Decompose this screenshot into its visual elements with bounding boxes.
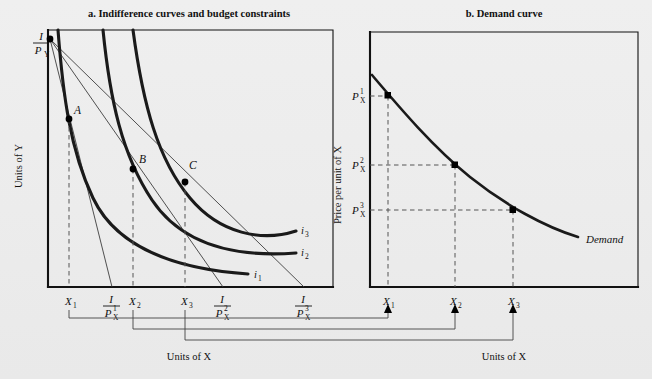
curve-label-i2: i 2 (301, 247, 309, 261)
panel-a-xtick-IPx1-sup: 1 (113, 304, 117, 313)
point-a-dot (66, 116, 73, 123)
panel-a-xtick-IPx1-sub: X (113, 313, 119, 322)
panel-a-xtick-IPx2-sup: 2 (224, 304, 228, 313)
panel-a: a. Indifference curves and budget constr… (13, 8, 333, 362)
panel-b-xtick-X1-base: X (382, 295, 391, 307)
curve-label-i3-base: i (301, 225, 304, 236)
panel-b-ytick-P1: P X 1 (351, 87, 366, 105)
panel-b-ytick-P3-sub: X (360, 210, 366, 219)
panel-b-ytick-P1-sup: 1 (360, 87, 364, 96)
panel-b: b. Demand curve Demand Price per unit of… (332, 8, 638, 362)
panel-b-ytick-P2-sup: 2 (360, 156, 364, 165)
indifference-curve-i1 (58, 30, 248, 274)
indifference-curve-i3 (133, 30, 296, 236)
point-label-a: A (73, 104, 82, 116)
panel-a-xtick-X3-sub: 3 (189, 301, 193, 310)
panel-b-xtick-X2-sub: 2 (458, 301, 462, 310)
panel-a-xtick-IPx3-sub: X (305, 313, 311, 322)
panel-a-xtick-X3: X 3 (180, 295, 193, 310)
panel-a-x-axis-title: Units of X (167, 351, 212, 362)
panel-b-y-axis-title: Price per unit of X (332, 146, 343, 225)
panel-b-ytick-P2: P X 2 (351, 156, 366, 174)
curve-label-i3: i 3 (301, 225, 309, 239)
budget-line-1 (50, 39, 112, 287)
y-intercept-denominator-sub: Y (44, 50, 50, 59)
connector-x3 (185, 310, 513, 340)
demand-point-1 (385, 92, 392, 99)
panel-a-xtick-X2-base: X (128, 295, 137, 307)
panel-b-xtick-X3-sub: 3 (516, 301, 520, 310)
panel-a-xtick-X2-sub: 2 (137, 301, 141, 310)
demand-point-3 (510, 207, 517, 214)
panel-b-ytick-P3: P X 3 (351, 201, 366, 219)
panel-a-xtick-IPx3-sup: 3 (305, 304, 309, 313)
panel-b-title: b. Demand curve (466, 8, 543, 19)
panel-b-xtick-X1-sub: 1 (391, 301, 395, 310)
budget-line-3 (50, 39, 304, 287)
panel-a-xtick-IPx2-sub: X (224, 313, 230, 322)
panel-b-xtick-X2-base: X (449, 295, 458, 307)
point-c-dot (182, 179, 189, 186)
curve-label-i1-base: i (254, 269, 257, 280)
demand-point-2 (452, 162, 459, 169)
curve-label-i2-base: i (301, 247, 304, 258)
panel-b-ytick-P1-sub: X (360, 96, 366, 105)
figure-canvas: a. Indifference curves and budget constr… (0, 0, 652, 379)
panel-a-xtick-X1-sub: 1 (73, 301, 77, 310)
demand-curve (372, 75, 578, 237)
panel-a-xtick-IPx2-denominator: P (215, 307, 223, 319)
panel-b-box (370, 32, 638, 287)
point-label-c: C (189, 159, 197, 171)
panel-a-xtick-X2: X 2 (128, 295, 141, 310)
panel-b-xtick-X3-base: X (507, 295, 516, 307)
curve-label-i1: i 1 (254, 269, 262, 283)
curve-label-i1-sub: 1 (258, 274, 262, 283)
panel-a-y-axis-title: Units of Y (13, 144, 24, 188)
curve-label-i3-sub: 3 (305, 230, 309, 239)
y-intercept-denominator: P (34, 44, 42, 56)
connector-x2 (133, 310, 455, 329)
panel-b-ytick-P3-base: P (351, 204, 359, 216)
panel-b-x-axis-title: Units of X (482, 351, 527, 362)
demand-curve-label: Demand (585, 233, 624, 245)
panel-b-ytick-P2-base: P (351, 159, 359, 171)
panel-a-xtick-X3-base: X (180, 295, 189, 307)
panel-a-title: a. Indifference curves and budget constr… (88, 8, 290, 19)
panel-b-ytick-P3-sup: 3 (360, 201, 364, 210)
economics-figure: a. Indifference curves and budget constr… (0, 0, 652, 379)
y-intercept-dot (47, 36, 54, 43)
panel-a-xtick-X1: X 1 (64, 295, 77, 310)
panel-a-xtick-IPx3-denominator: P (296, 307, 304, 319)
curve-label-i2-sub: 2 (305, 252, 309, 261)
panel-a-xtick-X1-base: X (64, 295, 73, 307)
y-intercept-numerator: I (38, 30, 44, 42)
budget-line-2 (50, 39, 223, 287)
indifference-curve-i2 (103, 30, 296, 254)
point-label-b: B (139, 153, 146, 165)
panel-a-xtick-IPx1-denominator: P (104, 307, 112, 319)
point-b-dot (130, 166, 137, 173)
panel-b-ytick-P2-sub: X (360, 165, 366, 174)
panel-b-ytick-P1-base: P (351, 90, 359, 102)
